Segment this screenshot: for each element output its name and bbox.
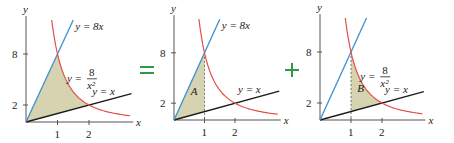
label-y-equals-x: y = x	[384, 83, 408, 95]
y-tick-label-2: 2	[12, 99, 18, 111]
label-y-equals-8x: y = 8x	[74, 20, 103, 32]
x-tick-label-2: 2	[232, 126, 238, 138]
label-y-equals-x: y = x	[237, 83, 261, 95]
curve-y-equals-8-over-x-squared	[199, 19, 278, 114]
y-axis-label: y	[170, 2, 176, 14]
y-tick-label-2: 2	[160, 97, 166, 109]
region-label-a: A	[190, 85, 198, 97]
figure-canvas: xy1228y = 8xy =8x²y = xxy1228y = 8xy = x…	[0, 0, 454, 143]
label-curve-prefix: y =	[66, 72, 82, 84]
y-tick-label-8: 8	[306, 46, 312, 58]
label-y-equals-x: y = x	[91, 85, 115, 97]
y-tick-label-8: 8	[12, 48, 18, 60]
x-tick-label-1: 1	[202, 126, 208, 138]
y-axis-label: y	[316, 1, 322, 13]
label-curve-numerator: 8	[89, 66, 95, 78]
x-tick-label-2: 2	[86, 128, 92, 140]
x-tick-label-1: 1	[348, 126, 354, 138]
y-tick-label-2: 2	[306, 97, 312, 109]
label-curve-prefix: y =	[359, 70, 375, 82]
label-y-equals-8x: y = 8x	[221, 19, 250, 31]
x-axis-label: x	[427, 114, 433, 126]
x-tick-label-2: 2	[379, 126, 385, 138]
y-tick-label-8: 8	[160, 47, 166, 59]
shaded-region-full-region	[26, 54, 89, 122]
region-label-b: B	[357, 82, 364, 94]
y-axis-label: y	[22, 3, 28, 15]
x-axis-label: x	[135, 116, 141, 128]
x-axis-label: x	[283, 114, 289, 126]
x-tick-label-1: 1	[55, 128, 61, 140]
area-decomposition-figure: xy1228y = 8xy =8x²y = xxy1228y = 8xy = x…	[0, 0, 454, 143]
label-curve-numerator: 8	[382, 64, 388, 76]
